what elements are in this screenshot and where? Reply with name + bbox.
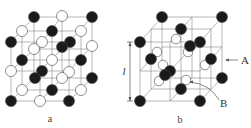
figure-a-lattice: [6, 11, 98, 107]
white-atom: [76, 26, 87, 37]
black-atom: [206, 54, 217, 65]
black-atom: [6, 37, 17, 48]
black-atom: [47, 26, 58, 37]
black-atom: [17, 55, 28, 66]
caption-a: a: [48, 113, 53, 124]
white-atom: [35, 96, 46, 107]
white-atom: [47, 55, 58, 66]
black-atom: [217, 73, 228, 84]
black-atom: [195, 96, 206, 107]
caption-b: b: [178, 114, 183, 125]
black-atom: [135, 96, 146, 107]
label-l: l: [122, 65, 125, 77]
white-atom: [171, 34, 181, 44]
dimension-l: [127, 42, 133, 101]
white-atom: [181, 75, 191, 85]
black-atom: [160, 70, 171, 81]
crystal-diagram: a l A B b: [0, 0, 251, 128]
white-atom: [87, 41, 98, 52]
black-atom: [176, 84, 187, 95]
label-A: A: [241, 54, 249, 66]
black-atom: [157, 12, 168, 23]
white-atom: [76, 85, 87, 96]
label-B: B: [220, 97, 227, 109]
black-atom: [87, 73, 98, 84]
black-atom: [217, 12, 228, 23]
white-atom: [29, 44, 40, 55]
white-atom: [17, 85, 28, 96]
black-atom: [6, 96, 17, 107]
black-atom: [146, 54, 157, 65]
white-atom: [57, 11, 68, 22]
white-atom: [6, 66, 17, 77]
black-atom: [176, 24, 187, 35]
black-atom: [87, 12, 98, 23]
black-atom: [185, 41, 196, 52]
black-atom: [195, 37, 206, 48]
black-atom: [47, 85, 58, 96]
black-atom: [135, 37, 146, 48]
white-atom: [57, 73, 68, 84]
pointer-A: [225, 59, 238, 62]
black-atom: [29, 12, 40, 23]
black-atom: [76, 55, 87, 66]
black-atom: [57, 42, 68, 53]
black-atom: [30, 73, 41, 84]
black-atom: [64, 96, 75, 107]
white-atom: [17, 26, 28, 37]
